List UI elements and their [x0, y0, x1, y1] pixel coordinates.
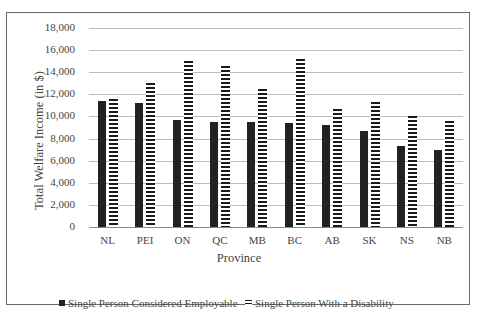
bar-disability-ns: [408, 116, 417, 227]
gridline: [89, 183, 463, 184]
legend-swatch-solid-icon: [59, 300, 65, 306]
bar-disability-qc: [221, 66, 230, 227]
x-tick-label: SK: [352, 234, 388, 246]
legend-swatch-striped-icon: [245, 300, 252, 306]
gridline: [89, 72, 463, 73]
bar-disability-nl: [109, 99, 118, 227]
x-tick-label: BC: [277, 234, 313, 246]
bar-disability-sk: [371, 102, 380, 227]
bar-disability-bc: [296, 59, 305, 227]
legend-label: Single Person With a Disability: [255, 297, 394, 309]
x-axis-label: Province: [7, 251, 471, 266]
chart-frame: Total Welfare Income (in $) Province Sin…: [6, 12, 470, 305]
x-tick-label: NB: [426, 234, 462, 246]
x-tick-label: AB: [314, 234, 350, 246]
y-tick-label: 18,000: [27, 21, 75, 33]
legend-label: Single Person Considered Employable: [68, 297, 238, 309]
bar-disability-nb: [445, 121, 454, 227]
bar-employable-nl: [98, 101, 106, 227]
x-tick-label: QC: [202, 234, 238, 246]
bar-employable-sk: [360, 131, 368, 227]
legend-item-employable: Single Person Considered Employable: [59, 297, 238, 309]
gridline: [89, 28, 463, 29]
x-tick-label: NS: [389, 234, 425, 246]
gridline: [89, 94, 463, 95]
bar-disability-mb: [258, 89, 267, 227]
x-axis-line: [89, 227, 463, 228]
bar-employable-qc: [210, 122, 218, 227]
bar-employable-on: [173, 120, 181, 227]
bar-employable-ab: [322, 125, 330, 227]
bar-disability-ab: [333, 109, 342, 227]
bar-employable-ns: [397, 146, 405, 227]
gridline: [89, 205, 463, 206]
y-tick-label: 14,000: [27, 65, 75, 77]
legend-item-disability: Single Person With a Disability: [245, 297, 394, 309]
gridline: [89, 139, 463, 140]
x-tick-label: ON: [165, 234, 201, 246]
y-tick-label: 4,000: [27, 176, 75, 188]
bar-disability-on: [184, 61, 193, 227]
y-tick-label: 6,000: [27, 154, 75, 166]
y-tick-label: 0: [27, 220, 75, 232]
bar-employable-nb: [434, 150, 442, 227]
bar-employable-mb: [247, 122, 255, 227]
y-tick-label: 8,000: [27, 132, 75, 144]
gridline: [89, 50, 463, 51]
y-tick-label: 16,000: [27, 43, 75, 55]
gridline: [89, 116, 463, 117]
y-tick-label: 2,000: [27, 198, 75, 210]
x-tick-label: MB: [239, 234, 275, 246]
bar-employable-bc: [285, 123, 293, 227]
bar-disability-pei: [146, 83, 155, 227]
x-tick-label: PEI: [127, 234, 163, 246]
bar-employable-pei: [135, 103, 143, 227]
x-tick-label: NL: [90, 234, 126, 246]
gridline: [89, 161, 463, 162]
y-tick-label: 10,000: [27, 109, 75, 121]
y-tick-label: 12,000: [27, 87, 75, 99]
